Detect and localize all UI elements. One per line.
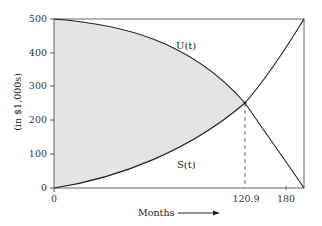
u-curve-label: U(t)	[176, 40, 196, 51]
y-tick-label: 300	[29, 80, 47, 91]
x-tick-label: 0	[51, 193, 57, 204]
s-curve-label: S(t)	[177, 159, 196, 170]
chart: 500 400 300 200 100 0 0 120.9 180 U(t) S…	[0, 0, 322, 226]
y-axis: 500 400 300 200 100 0	[29, 13, 54, 193]
x-axis-title: Months	[138, 207, 175, 218]
arrow-right-icon	[178, 211, 220, 216]
y-tick-label: 100	[29, 148, 47, 159]
y-tick-label: 400	[29, 47, 47, 58]
y-tick-label: 200	[29, 114, 47, 125]
x-axis: 0 120.9 180	[51, 186, 295, 204]
y-tick-label: 0	[41, 182, 47, 193]
crossing-point	[244, 102, 247, 105]
x-tick-label: 120.9	[232, 193, 259, 204]
shaded-region	[54, 19, 245, 188]
y-axis-title: (in $1,000s)	[12, 73, 23, 131]
x-tick-label: 180	[277, 193, 295, 204]
y-tick-label: 500	[29, 13, 47, 24]
